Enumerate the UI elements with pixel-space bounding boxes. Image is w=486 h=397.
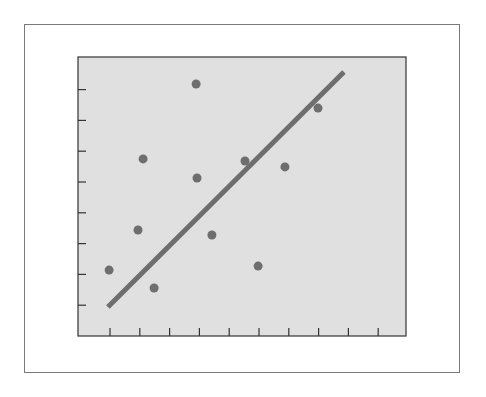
data-point [134,226,143,235]
data-point [254,262,263,271]
data-point [207,230,216,239]
data-point [193,173,202,182]
data-point [314,104,323,113]
data-point [280,162,289,171]
scatter-plot [0,0,486,397]
data-point [192,80,201,89]
data-point [240,157,249,166]
plot-area [78,57,406,336]
data-point [139,154,148,163]
data-point [150,283,159,292]
data-point [105,266,114,275]
